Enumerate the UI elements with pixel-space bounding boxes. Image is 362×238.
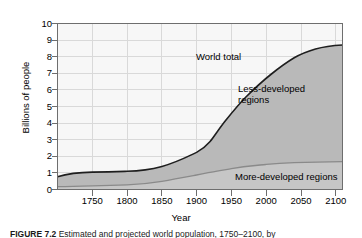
y-tick-label: 6	[32, 85, 52, 95]
figure-caption: FIGURE 7.2 Estimated and projected world…	[10, 229, 356, 238]
annotation-more-developed-regions: More-developed regions	[235, 172, 337, 183]
y-tick-label: 8	[32, 52, 52, 62]
figure-population-chart: Billions of people 10 9 8 7 6 5 4 3 2 1 …	[0, 0, 362, 238]
y-tick-label: 0	[32, 185, 52, 195]
y-tick-label: 7	[32, 69, 52, 79]
figure-caption-text: Estimated and projected world population…	[59, 229, 276, 238]
y-tick-label: 4	[32, 118, 52, 128]
y-tick-label: 5	[32, 102, 52, 112]
y-tick-label: 1	[32, 168, 52, 178]
y-tick-marks	[52, 24, 58, 190]
y-tick-label: 9	[32, 35, 52, 45]
annotation-world-total: World total	[196, 52, 241, 63]
x-axis-tick-labels: 1750 1800 1850 1900 1950 2000 2050 2100	[0, 196, 362, 210]
x-axis-title: Year	[0, 212, 362, 223]
y-tick-label: 3	[32, 135, 52, 145]
x-tick-label: 2100	[316, 196, 356, 206]
y-tick-label: 10	[32, 19, 52, 29]
y-tick-label: 2	[32, 152, 52, 162]
figure-caption-number: FIGURE 7.2	[10, 229, 56, 238]
annotation-less-developed-regions: Less-developed regions	[238, 84, 305, 106]
